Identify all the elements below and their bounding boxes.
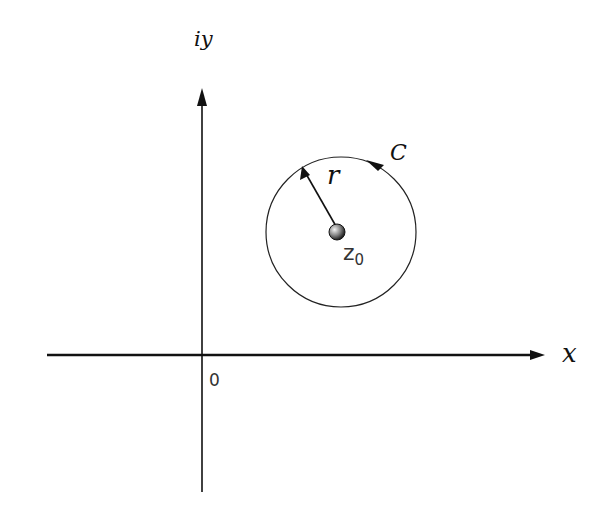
radius-label: r [327, 160, 339, 190]
origin-label: 0 [209, 370, 220, 390]
contour-label: C [390, 140, 407, 165]
diagram-canvas [0, 0, 616, 514]
x-axis [47, 350, 545, 360]
y-axis-label: iy [194, 27, 213, 51]
center-label: z0 [343, 240, 364, 269]
center-label-subscript: 0 [355, 251, 365, 269]
x-axis-arrow-icon [530, 350, 545, 360]
center-point [329, 224, 345, 240]
y-axis [197, 88, 207, 492]
center-label-main: z [343, 240, 355, 265]
x-axis-label: x [562, 338, 577, 368]
y-axis-arrow-icon [197, 88, 207, 106]
